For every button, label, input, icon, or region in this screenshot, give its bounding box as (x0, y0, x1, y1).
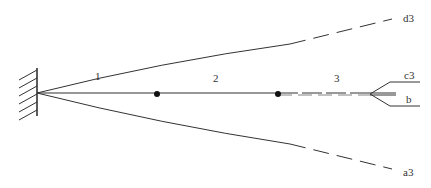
segment-label-3: 3 (334, 72, 340, 84)
lower-envelope-curve (37, 93, 392, 169)
upper-bound-label: d3 (403, 12, 415, 24)
upper-branch-label: c3 (404, 69, 415, 81)
node-dot-1 (154, 91, 160, 97)
lower-bound-label: a3 (403, 166, 414, 178)
end-fork (370, 82, 420, 106)
central-axis-line (37, 93, 370, 95)
beam-diagram: 1 2 3 d3 a3 c3 b (0, 0, 431, 188)
lower-branch-label: b (406, 93, 412, 105)
segment-label-2: 2 (213, 72, 219, 84)
fixed-support-wall (19, 68, 37, 120)
segment-label-1: 1 (95, 70, 101, 82)
node-dot-2 (275, 91, 281, 97)
